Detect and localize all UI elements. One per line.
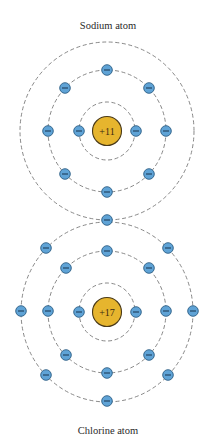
atom-diagram: Sodium atom+11Chlorine atom+17: [0, 0, 212, 442]
electron: [61, 263, 72, 274]
electron: [102, 215, 113, 226]
electron: [74, 126, 85, 137]
electron: [131, 307, 142, 318]
atoms-layer: Sodium atom+11Chlorine atom+17: [16, 20, 199, 436]
sodium-nucleus-charge: +11: [99, 126, 114, 137]
electron: [41, 243, 52, 254]
electron: [60, 169, 71, 180]
electron: [131, 126, 142, 137]
electron: [144, 350, 155, 361]
electron: [61, 350, 72, 361]
electron: [43, 126, 54, 137]
electron: [102, 187, 113, 198]
electron: [43, 306, 54, 317]
electron: [102, 246, 113, 257]
electron: [161, 306, 172, 317]
electron: [16, 306, 27, 317]
electron: [144, 83, 155, 94]
electron: [163, 243, 174, 254]
electron: [144, 169, 155, 180]
electron: [102, 396, 113, 407]
chlorine-nucleus-charge: +17: [99, 307, 115, 318]
electron: [60, 83, 71, 94]
electron: [188, 306, 199, 317]
electron: [74, 307, 85, 318]
electron: [161, 126, 172, 137]
electron: [163, 370, 174, 381]
electron: [102, 65, 113, 76]
electron: [41, 370, 52, 381]
electron: [144, 263, 155, 274]
sodium-title: Sodium atom: [80, 20, 136, 31]
electron: [102, 368, 113, 379]
chlorine-title: Chlorine atom: [78, 425, 138, 436]
